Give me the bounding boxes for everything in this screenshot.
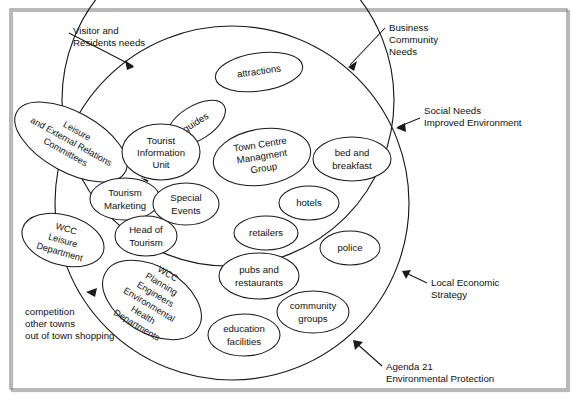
node-bed-and-breakfast[interactable]: bed and breakfast <box>313 137 391 181</box>
node-bnb-line-1: bed and <box>335 147 370 158</box>
node-tiu-line-3: Unit <box>152 159 169 170</box>
node-hot-line-1: Head of <box>129 224 163 235</box>
annotation-competition-other-towns: competition other towns out of town shop… <box>25 288 114 341</box>
annotation-les-line-2: Strategy <box>431 289 467 300</box>
annotation-local-economic-strategy: Local Economic Strategy <box>402 270 500 300</box>
node-tiu-line-2: Information <box>137 147 185 158</box>
node-police-label: police <box>337 242 362 253</box>
arrow-head-social <box>396 123 406 132</box>
annotation-visitor-line-2: Residents needs <box>73 37 145 48</box>
node-head-of-tourism[interactable]: Head of Tourism <box>115 216 177 256</box>
annotation-social-line-1: Social Needs <box>424 105 481 116</box>
diagram-page: WCC Tourism Services attractions guides … <box>0 0 583 405</box>
node-retailers[interactable]: retailers <box>234 216 298 250</box>
node-se-line-1: Special <box>170 192 201 203</box>
node-pubs-and-restaurants[interactable]: pubs and restaurants <box>219 253 299 299</box>
node-hotels-label: hotels <box>296 197 322 208</box>
annotation-social-line-2: Improved Environment <box>424 117 522 128</box>
node-tourism-marketing[interactable]: Tourism Marketing <box>90 178 160 220</box>
annotation-business-line-3: Needs <box>389 46 417 57</box>
annotation-les-line-1: Local Economic <box>431 277 500 288</box>
annotation-business-community-needs: Business Community Needs <box>348 22 438 71</box>
annotation-visitor-residents-needs: Visitor and Residents needs <box>69 25 145 70</box>
node-cg-line-1: community <box>290 300 337 311</box>
node-town-centre-managment-group[interactable]: Town Centre Managment Group <box>209 122 315 193</box>
annotation-business-line-2: Community <box>389 34 438 45</box>
annotation-comp-line-2: other towns <box>25 318 75 329</box>
annotation-a21-line-2: Environmental Protection <box>386 373 494 384</box>
leader-line-business <box>350 28 385 65</box>
annotation-visitor-line-1: Visitor and <box>73 25 119 36</box>
node-hot-line-2: Tourism <box>129 237 163 248</box>
node-wcc-leisure-department[interactable]: WCC Leisure Department <box>16 204 111 275</box>
node-police[interactable]: police <box>320 231 380 265</box>
node-cg-line-2: groups <box>298 313 328 324</box>
node-tourist-information-unit[interactable]: Tourist Information Unit <box>122 124 200 180</box>
node-tiu-line-1: Tourist <box>147 135 176 146</box>
tourism-stakeholder-diagram: WCC Tourism Services attractions guides … <box>0 0 583 405</box>
annotation-a21-line-1: Agenda 21 <box>386 361 433 372</box>
arrow-head-competition <box>86 288 97 297</box>
node-par-line-2: restaurants <box>235 277 283 288</box>
node-bnb-line-2: breakfast <box>332 160 372 171</box>
annotation-agenda-21-environmental-protection: Agenda 21 Environmental Protection <box>353 340 494 384</box>
node-community-groups[interactable]: community groups <box>277 291 349 333</box>
node-tm-line-1: Tourism <box>108 187 142 198</box>
annotation-social-needs-improved-environment: Social Needs Improved Environment <box>396 105 522 132</box>
node-par-line-1: pubs and <box>239 264 278 275</box>
node-ef-line-2: facilities <box>227 336 261 347</box>
node-attractions[interactable]: attractions <box>213 47 305 97</box>
node-ef-line-1: education <box>223 323 265 334</box>
node-education-facilities[interactable]: education facilities <box>208 314 280 356</box>
annotation-comp-line-3: out of town shopping <box>25 330 114 341</box>
node-hotels[interactable]: hotels <box>279 186 339 220</box>
node-se-line-2: Events <box>171 205 201 216</box>
node-retailers-label: retailers <box>249 227 283 238</box>
arrow-head-a21 <box>353 340 363 350</box>
node-tm-line-2: Marketing <box>104 200 146 211</box>
arrow-head-visitor <box>125 60 134 70</box>
annotation-comp-line-1: competition <box>25 306 75 317</box>
annotation-business-line-1: Business <box>389 22 428 33</box>
